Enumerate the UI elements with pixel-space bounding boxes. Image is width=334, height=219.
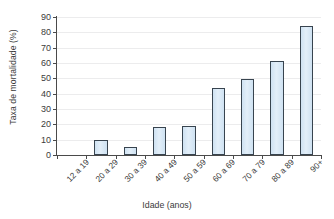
x-axis-category-label: 30 a 39 [123, 157, 150, 184]
bar [212, 88, 225, 155]
bar [241, 79, 254, 155]
x-axis-tick-mark [321, 155, 322, 159]
bar [270, 61, 283, 155]
x-axis-category-label: 90+ [308, 157, 325, 174]
y-axis-title: Taxa de mortalidade (%) [8, 2, 18, 152]
bar-chart: Taxa de mortalidade (%) 0102030405060708… [0, 0, 334, 219]
x-axis-category-label: 20 a 29 [93, 157, 120, 184]
x-axis-category-label: 50 a 59 [181, 157, 208, 184]
y-axis-tick-label: 30 [41, 104, 51, 114]
bar [182, 126, 195, 155]
y-axis-tick-mark [53, 124, 57, 125]
x-axis-category-label: 70 a 79 [240, 157, 267, 184]
bars-layer [57, 17, 321, 155]
plot-area: 0102030405060708090 [57, 17, 321, 155]
y-axis-tick-label: 20 [41, 119, 51, 129]
y-axis-tick-mark [53, 155, 57, 156]
x-axis-category-label: 60 a 69 [211, 157, 238, 184]
y-axis-tick-label: 50 [41, 73, 51, 83]
y-axis-tick-mark [53, 94, 57, 95]
y-axis-tick-mark [53, 63, 57, 64]
x-axis-category-label: 40 a 49 [152, 157, 179, 184]
x-axis-title: Idade (anos) [0, 200, 334, 210]
y-axis-tick-label: 0 [46, 150, 51, 160]
y-axis-tick-label: 60 [41, 58, 51, 68]
y-axis-tick-mark [53, 109, 57, 110]
y-axis-tick-mark [53, 32, 57, 33]
bar [153, 127, 166, 155]
x-axis-category-label: 80 a 89 [269, 157, 296, 184]
x-axis-category-labels: 12 a 1920 a 2930 a 3940 a 4950 a 5960 a … [57, 157, 321, 197]
bar [94, 140, 107, 155]
y-axis-tick-mark [53, 17, 57, 18]
bar [300, 26, 313, 155]
bar [124, 147, 137, 155]
y-axis-tick-label: 90 [41, 12, 51, 22]
y-axis-tick-label: 80 [41, 27, 51, 37]
y-axis-tick-label: 40 [41, 89, 51, 99]
y-axis-tick-mark [53, 78, 57, 79]
x-axis-category-label: 12 a 19 [64, 157, 91, 184]
y-axis-tick-label: 10 [41, 135, 51, 145]
y-axis-tick-mark [53, 48, 57, 49]
y-axis-tick-mark [53, 140, 57, 141]
y-axis-tick-label: 70 [41, 43, 51, 53]
